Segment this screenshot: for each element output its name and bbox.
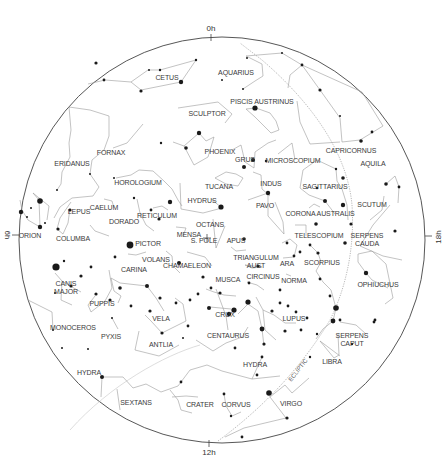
- constellation-label: HYDRA: [77, 369, 101, 377]
- constellation-label: CORONA AUSTRALIS: [285, 210, 354, 218]
- constellation-label: CENTAURUS: [207, 332, 249, 340]
- constellation-label: CARINA: [121, 266, 147, 274]
- constellation-label: TRIANGULUM AUST: [233, 254, 278, 270]
- hour-label-6h: 6h: [3, 231, 12, 240]
- constellation-label: ERIDANUS: [54, 160, 89, 168]
- constellation-label: COLUMBA: [56, 235, 90, 243]
- constellation-label: TUCANA: [205, 183, 233, 191]
- constellation-label: LUPUS: [283, 315, 306, 323]
- constellation-label: SCUTUM: [357, 201, 386, 209]
- constellation-label: CORVUS: [221, 401, 250, 409]
- constellation-label: PICTOR: [135, 240, 161, 248]
- constellation-label: OCTANS: [196, 221, 224, 229]
- constellation-label: PYXIS: [101, 333, 121, 341]
- constellation-label: HOROLOGIUM: [114, 179, 162, 187]
- constellation-label: MICROSCOPIUM: [266, 157, 321, 165]
- constellation-label: TELESCOPIUM: [294, 232, 343, 240]
- constellation-label: CHAMAELEON: [163, 262, 211, 270]
- constellation-label: LIBRA: [322, 358, 342, 366]
- constellation-label: CETUS: [155, 74, 178, 82]
- constellation-label: FORNAX: [97, 149, 126, 157]
- constellation-label: CAELUM: [90, 204, 119, 212]
- constellation-label: SERPENS CAPUT: [336, 332, 369, 348]
- constellation-label: ORION: [19, 232, 41, 240]
- constellation-label: SCORPIUS: [304, 259, 340, 267]
- constellation-label: AQUARIUS: [218, 69, 254, 77]
- constellation-label: GRUS: [235, 156, 255, 164]
- constellation-label: SAGITTARIUS: [302, 183, 347, 191]
- constellation-label: MUSCA: [216, 276, 241, 284]
- constellation-label: ANTLIA: [149, 341, 173, 349]
- hour-label-12h: 12h: [202, 448, 215, 457]
- constellation-label: APUS: [227, 237, 246, 245]
- constellation-label: CRUX: [215, 311, 234, 319]
- constellation-label: OPHIUCHUS: [357, 281, 398, 289]
- constellation-label: CRATER: [186, 401, 214, 409]
- constellation-label: INDUS: [260, 180, 281, 188]
- constellation-label: SERPENS CAUDA: [351, 232, 384, 248]
- hour-label-18h: 18h: [434, 230, 443, 243]
- constellation-label: AQUILA: [360, 160, 385, 168]
- constellation-label: SCULPTOR: [188, 110, 225, 118]
- constellation-label: CANIS MAJOR: [54, 280, 78, 296]
- constellation-label: NORMA: [281, 277, 307, 285]
- constellation-label: HYDRUS: [188, 197, 217, 205]
- constellation-label: RETICULUM: [137, 212, 177, 220]
- hour-label-0h: 0h: [207, 24, 216, 33]
- constellation-label: CIRCINUS: [246, 273, 279, 281]
- constellation-label: ARA: [280, 260, 294, 268]
- constellation-label: S. POLE: [191, 237, 218, 245]
- constellation-label: CAPRICORNUS: [326, 147, 377, 155]
- constellation-label: DORADO: [109, 218, 139, 226]
- constellation-label: MONOCEROS: [50, 324, 96, 332]
- constellation-label: SEXTANS: [120, 399, 151, 407]
- constellation-label: PAVO: [256, 202, 274, 210]
- constellation-label: HYDRA: [243, 361, 267, 369]
- constellation-label: VIRGO: [280, 400, 302, 408]
- constellation-label: PHOENIX: [205, 148, 236, 156]
- constellation-label: VELA: [152, 315, 170, 323]
- constellation-label: PISCIS AUSTRINUS: [230, 98, 293, 106]
- constellation-label: LEPUS: [68, 208, 90, 216]
- constellation-label: PUPPIS: [89, 300, 114, 308]
